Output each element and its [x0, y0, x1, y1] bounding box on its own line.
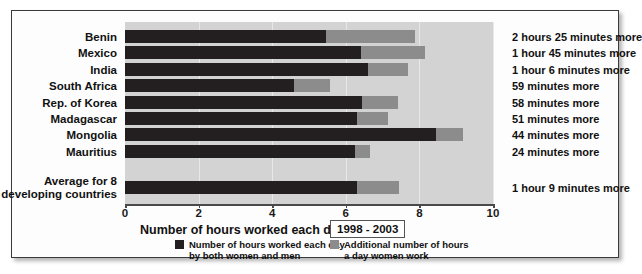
chart-legend: Number of hours worked each day by both …	[12, 239, 618, 265]
bar-row	[125, 46, 493, 59]
category-label: Madagascar	[0, 113, 117, 125]
legend-label: Number of hours worked each day by both …	[189, 239, 345, 261]
bar-row	[125, 30, 493, 43]
x-axis-tick-label: 8	[404, 207, 434, 219]
bar-row	[125, 128, 493, 141]
x-axis-tick-label: 2	[184, 207, 214, 219]
bar-segment-extra-hours-women	[326, 30, 415, 43]
category-label: Rep. of Korea	[0, 97, 117, 109]
bar-segment-extra-hours-women	[355, 145, 370, 158]
x-axis-tick-label: 6	[331, 207, 361, 219]
gridline	[493, 22, 494, 204]
x-axis-tick-label: 4	[257, 207, 287, 219]
chart-figure: 0246810Benin2 hours 25 minutes moreMexic…	[11, 10, 619, 258]
bar-row	[125, 145, 493, 158]
bar-segment-extra-hours-women	[436, 128, 463, 141]
category-label: South Africa	[0, 80, 117, 92]
annotation-label: 59 minutes more	[512, 80, 599, 92]
annotation-label: 58 minutes more	[512, 97, 599, 109]
annotation-label: 51 minutes more	[512, 113, 599, 125]
bar-segment-extra-hours-women	[361, 46, 425, 59]
annotation-label: 24 minutes more	[512, 146, 599, 158]
category-label: Mexico	[0, 47, 117, 59]
bar-row	[125, 96, 493, 109]
bar-segment-base-hours	[125, 96, 362, 109]
bar-segment-base-hours	[125, 112, 357, 125]
annotation-label: 1 hour 45 minutes more	[512, 47, 636, 59]
category-label: Benin	[0, 31, 117, 43]
period-badge: 1998 - 2003	[330, 220, 405, 238]
annotation-label: 1 hour 6 minutes more	[512, 64, 630, 76]
annotation-label-average: 1 hour 9 minutes more	[512, 182, 630, 194]
legend-label: Additional number of hours a day women w…	[344, 239, 469, 261]
bar-segment-base-hours	[125, 79, 294, 92]
bar-segment-base-hours	[125, 128, 436, 141]
bar-segment-base-hours	[125, 181, 357, 194]
legend-swatch-icon	[175, 240, 184, 249]
annotation-label: 44 minutes more	[512, 129, 599, 141]
category-label: India	[0, 64, 117, 76]
x-axis-title: Number of hours worked each day	[140, 223, 345, 237]
x-axis-tick-label: 0	[110, 207, 140, 219]
annotation-label: 2 hours 25 minutes more	[512, 31, 642, 43]
bar-segment-base-hours	[125, 145, 355, 158]
bar-row-average	[125, 181, 493, 194]
bar-row	[125, 112, 493, 125]
bar-segment-extra-hours-women	[357, 112, 388, 125]
category-label: Mauritius	[0, 146, 117, 158]
legend-swatch-icon	[330, 240, 339, 249]
bar-row	[125, 63, 493, 76]
bar-segment-extra-hours-women	[294, 79, 330, 92]
bar-segment-extra-hours-women	[362, 96, 398, 109]
bar-row	[125, 79, 493, 92]
bar-segment-base-hours	[125, 63, 368, 76]
bar-segment-base-hours	[125, 46, 361, 59]
x-axis-tick-label: 10	[478, 207, 508, 219]
bar-segment-extra-hours-women	[357, 181, 399, 194]
legend-entry: Additional number of hours a day women w…	[330, 239, 469, 261]
legend-entry: Number of hours worked each day by both …	[175, 239, 345, 261]
bar-segment-extra-hours-women	[368, 63, 408, 76]
category-label: Mongolia	[0, 129, 117, 141]
category-label-average: Average for 8 developing countries	[0, 175, 117, 201]
x-axis-line	[125, 204, 494, 206]
bar-segment-base-hours	[125, 30, 326, 43]
